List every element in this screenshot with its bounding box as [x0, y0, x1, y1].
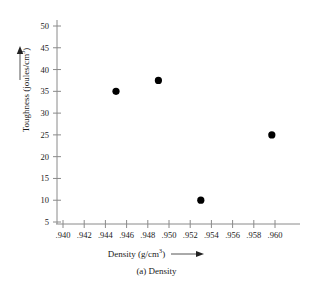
y-tick-label-10: 10 [27, 196, 49, 205]
data-point-3 [197, 197, 204, 204]
y-axis-title: Toughness (joules/cm3) [15, 5, 31, 175]
x-tick-label-p960: .960 [262, 231, 288, 240]
x-axis-title: Density (g/cm3) [0, 243, 313, 261]
data-point-2 [155, 77, 162, 84]
x-axis-arrow-icon [171, 250, 205, 260]
y-tick-label-15: 15 [27, 174, 49, 183]
data-point-1 [112, 88, 119, 95]
y-tick-label-5: 5 [27, 218, 49, 227]
data-point-4 [268, 131, 275, 138]
y-axis-title-text: Toughness (joules/cm3) [21, 48, 31, 133]
figure-caption: (a) Density [0, 266, 313, 276]
x-axis-title-text: Density (g/cm3) [108, 249, 205, 259]
figure-density-scatter: 5101520253035404550 .940.942.944.946.948… [0, 0, 313, 293]
x-axis-unit-exponent: 3 [159, 248, 162, 254]
y-axis-unit-exponent: 3 [20, 51, 26, 54]
